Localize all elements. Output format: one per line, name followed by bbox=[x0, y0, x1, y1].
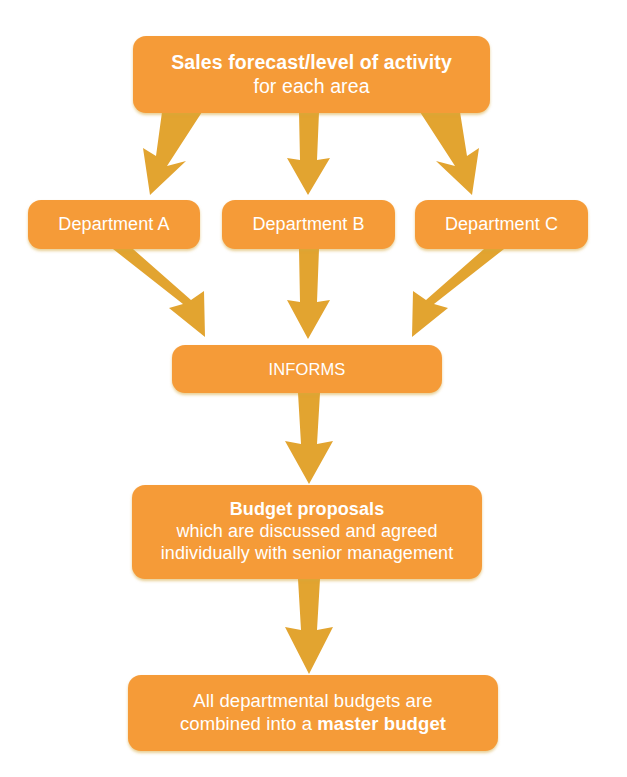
node-department-c[interactable]: Department C bbox=[415, 200, 588, 249]
node-sales-forecast[interactable]: Sales forecast/level of activity for eac… bbox=[133, 36, 490, 113]
node-department-b[interactable]: Department B bbox=[222, 200, 395, 249]
node-sales-forecast-line1: Sales forecast/level of activity bbox=[171, 51, 452, 75]
node-master-budget[interactable]: All departmental budgets are combined in… bbox=[128, 675, 498, 751]
node-budget-proposals-line3: individually with senior management bbox=[161, 543, 454, 565]
arrow-department-c-to-informs bbox=[412, 249, 504, 337]
arrow-department-b-to-informs bbox=[287, 249, 330, 339]
node-master-budget-line2: combined into a master budget bbox=[180, 713, 446, 736]
node-master-budget-line1: All departmental budgets are bbox=[193, 690, 432, 713]
budget-flowchart: Sales forecast/level of activity for eac… bbox=[0, 0, 627, 777]
node-budget-proposals-line1: Budget proposals bbox=[230, 499, 385, 521]
node-department-a[interactable]: Department A bbox=[28, 200, 200, 249]
node-budget-proposals-line2: which are discussed and agreed bbox=[176, 521, 437, 543]
node-master-budget-line2-prefix: combined into a bbox=[180, 713, 317, 734]
node-department-b-label: Department B bbox=[252, 214, 364, 236]
arrow-sales-to-department-c bbox=[420, 112, 479, 195]
node-informs[interactable]: INFORMS bbox=[172, 345, 442, 393]
node-informs-label: INFORMS bbox=[269, 359, 346, 379]
arrow-informs-to-budget-proposals bbox=[285, 393, 333, 484]
node-sales-forecast-line2: for each area bbox=[253, 75, 369, 99]
arrow-budget-proposals-to-master-budget bbox=[285, 579, 333, 674]
node-budget-proposals[interactable]: Budget proposals which are discussed and… bbox=[132, 485, 482, 579]
arrow-sales-to-department-a bbox=[143, 112, 202, 195]
node-master-budget-line2-emphasis: master budget bbox=[317, 713, 446, 734]
arrow-department-a-to-informs bbox=[113, 249, 205, 337]
node-department-c-label: Department C bbox=[445, 214, 558, 236]
arrow-sales-to-department-b bbox=[287, 112, 330, 195]
node-department-a-label: Department A bbox=[58, 214, 169, 236]
